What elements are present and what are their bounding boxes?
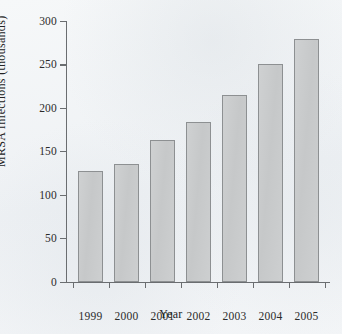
- bar: [150, 140, 175, 282]
- plot-area: 050100150200250300 199920002001200220032…: [66, 21, 330, 283]
- x-axis-tick: [109, 283, 110, 288]
- bar: [258, 64, 283, 282]
- y-axis-tick-label: 300: [39, 15, 57, 27]
- x-axis-tick: [181, 283, 182, 288]
- bar: [222, 95, 247, 282]
- x-axis-line: [66, 282, 330, 283]
- x-axis-tick: [73, 283, 74, 288]
- x-axis-tick: [325, 283, 326, 288]
- y-axis-tick-label: 200: [39, 102, 57, 114]
- y-axis-title: MRSA Infections (thousands): [0, 16, 9, 167]
- y-axis-tick-label: 50: [45, 232, 57, 244]
- x-axis-tick: [145, 283, 146, 288]
- bar: [186, 122, 211, 282]
- y-axis-tick-label: 250: [39, 58, 57, 70]
- y-axis-tick: [60, 282, 66, 283]
- chart-figure: 050100150200250300 199920002001200220032…: [0, 0, 342, 334]
- x-axis-tick: [217, 283, 218, 288]
- y-axis-tick-label: 100: [39, 189, 57, 201]
- y-axis-tick-label: 0: [51, 276, 57, 288]
- x-axis-tick: [289, 283, 290, 288]
- bar: [78, 171, 103, 281]
- bar: [294, 39, 319, 281]
- bar: [114, 164, 139, 281]
- x-axis-title: Year: [0, 307, 342, 322]
- y-axis-tick-label: 150: [39, 145, 57, 157]
- bar-series: [66, 21, 330, 282]
- x-axis-tick: [253, 283, 254, 288]
